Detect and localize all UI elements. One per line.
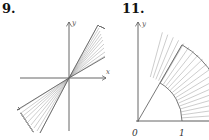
tick-label-1: 1 <box>179 128 185 138</box>
sector-edges <box>138 45 209 121</box>
origin-label: 0 <box>132 128 138 138</box>
figure-11-y-label: y <box>141 20 147 28</box>
figure-11-diagram: y 0 1 <box>0 0 209 140</box>
